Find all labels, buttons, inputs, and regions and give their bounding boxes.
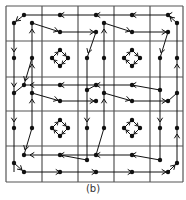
node-dot xyxy=(102,91,106,95)
edge-line xyxy=(160,32,168,58)
node-dot xyxy=(102,56,106,60)
node-dot xyxy=(58,13,62,17)
edge-line xyxy=(96,128,104,155)
node-dot xyxy=(166,99,170,103)
node-dot xyxy=(175,91,179,95)
node-dot xyxy=(12,21,16,25)
node-dot xyxy=(58,134,62,138)
node-dot xyxy=(58,153,62,157)
node-dot xyxy=(94,30,98,34)
edge-line xyxy=(32,23,60,32)
node-dot xyxy=(122,56,126,60)
node-dot xyxy=(58,64,62,68)
node-dot xyxy=(175,126,179,130)
node-dot xyxy=(130,64,134,68)
node-dot xyxy=(138,126,142,130)
node-dot xyxy=(30,126,34,130)
node-dot xyxy=(12,161,16,165)
node-dot xyxy=(58,99,62,103)
node-dot xyxy=(85,158,89,162)
arrow-edges xyxy=(11,12,179,174)
edge-line xyxy=(87,32,96,58)
node-dot xyxy=(130,134,134,138)
node-dot xyxy=(94,99,98,103)
flow-diagram xyxy=(0,0,186,200)
node-dot xyxy=(94,13,98,17)
vortex-diamonds xyxy=(50,48,142,138)
node-dot xyxy=(138,56,142,60)
node-dot xyxy=(66,56,70,60)
figure-caption: (b) xyxy=(0,183,186,194)
node-dot xyxy=(22,153,26,157)
vortex-diamond xyxy=(50,48,70,68)
node-dot xyxy=(130,83,134,87)
node-dot xyxy=(130,118,134,122)
node-dot xyxy=(175,21,179,25)
edge-line xyxy=(24,128,32,155)
node-dot xyxy=(130,30,134,34)
node-dot xyxy=(58,83,62,87)
node-dot xyxy=(166,30,170,34)
node-dot xyxy=(58,170,62,174)
node-dot xyxy=(130,48,134,52)
node-dot xyxy=(22,83,26,87)
node-dot xyxy=(12,56,16,60)
node-dot xyxy=(30,91,34,95)
node-dot xyxy=(130,170,134,174)
node-dot xyxy=(102,21,106,25)
node-dot xyxy=(94,83,98,87)
node-dot xyxy=(158,126,162,130)
node-dot xyxy=(85,88,89,92)
node-dot xyxy=(58,118,62,122)
node-dot xyxy=(12,91,16,95)
vortex-diamond xyxy=(122,48,142,68)
node-dot xyxy=(158,158,162,162)
node-dot xyxy=(58,48,62,52)
node-dot xyxy=(12,126,16,130)
node-dot xyxy=(158,88,162,92)
node-dot xyxy=(102,126,106,130)
node-dot xyxy=(66,126,70,130)
node-dot xyxy=(130,99,134,103)
node-dot xyxy=(58,30,62,34)
node-dot xyxy=(175,161,179,165)
node-dot xyxy=(85,126,89,130)
node-dot xyxy=(30,21,34,25)
vortex-diamond xyxy=(50,118,70,138)
node-dot xyxy=(130,13,134,17)
node-dot xyxy=(94,153,98,157)
node-dot xyxy=(166,13,170,17)
node-dot xyxy=(22,13,26,17)
node-dot xyxy=(30,56,34,60)
node-dot xyxy=(22,170,26,174)
node-dots xyxy=(12,13,179,174)
node-dot xyxy=(50,56,54,60)
node-dot xyxy=(166,170,170,174)
node-dot xyxy=(175,56,179,60)
vortex-diamond xyxy=(122,118,142,138)
node-dot xyxy=(85,56,89,60)
node-dot xyxy=(130,153,134,157)
node-dot xyxy=(50,126,54,130)
node-dot xyxy=(158,56,162,60)
edge-line xyxy=(104,23,132,32)
node-dot xyxy=(94,170,98,174)
node-dot xyxy=(122,126,126,130)
